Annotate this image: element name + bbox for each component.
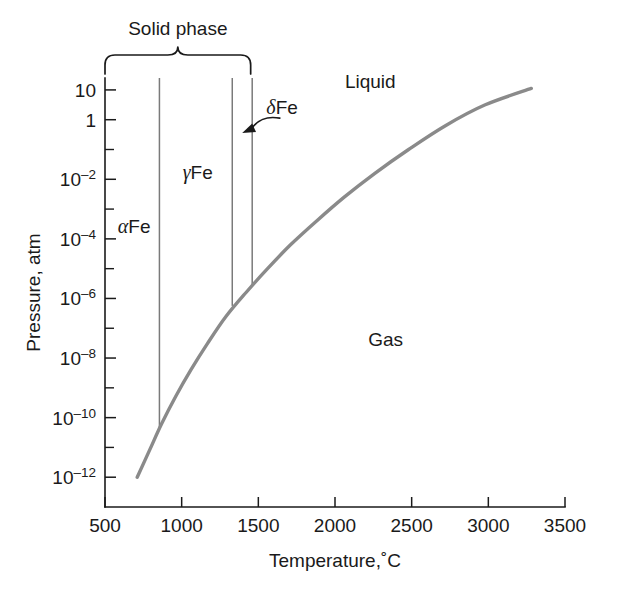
- x-tick-label: 2000: [314, 515, 356, 536]
- x-axis-title: Temperature,˚C: [269, 550, 401, 571]
- solid-phase-bracket: [105, 47, 251, 74]
- y-tick-label: 10–4: [60, 227, 97, 250]
- region-label-liquid: Liquid: [345, 71, 396, 92]
- x-tick-label: 2500: [391, 515, 433, 536]
- region-label-alpha-fe: αFe: [118, 215, 151, 237]
- phase-diagram-figure: Solid phase 10110–210–410–610–810–1010–1…: [0, 0, 620, 604]
- y-tick-label: 10–8: [60, 346, 96, 369]
- y-tick-label: 10–6: [60, 286, 96, 309]
- y-tick-label: 10: [75, 80, 96, 101]
- region-label-delta-fe: δFe: [266, 96, 297, 118]
- x-tick-label: 1500: [237, 515, 279, 536]
- y-tick-label: 10–2: [60, 167, 96, 190]
- region-label-gamma-fe: γFe: [183, 161, 213, 184]
- x-axis: [105, 497, 565, 507]
- y-tick-label: 10–10: [52, 406, 96, 429]
- delta-fe-callout: [242, 118, 280, 134]
- y-tick-label: 10–12: [52, 465, 96, 488]
- y-axis: [105, 78, 116, 507]
- region-label-gas: Gas: [368, 329, 403, 350]
- x-tick-label: 500: [89, 515, 121, 536]
- bracket-path: [105, 47, 251, 74]
- y-tick-label: 1: [85, 110, 96, 131]
- x-tick-label: 3000: [467, 515, 509, 536]
- sublimation-vaporization-curve: [137, 88, 531, 477]
- x-axis-tick-labels: 500100015002000250030003500: [89, 515, 586, 536]
- solid-phase-bracket-label: Solid phase: [128, 18, 227, 39]
- iron-phase-diagram-chart: Solid phase 10110–210–410–610–810–1010–1…: [0, 0, 620, 604]
- x-tick-label: 3500: [544, 515, 586, 536]
- phase-curve-path: [137, 88, 531, 477]
- y-axis-tick-labels: 10110–210–410–610–810–1010–12: [52, 80, 96, 488]
- callout-arrow-line: [251, 118, 280, 130]
- phase-region-labels: αFeγFeδFeLiquidGas: [118, 71, 403, 350]
- x-tick-label: 1000: [161, 515, 203, 536]
- phase-boundary-lines: [159, 78, 252, 428]
- y-axis-title: Pressure, atm: [23, 233, 44, 351]
